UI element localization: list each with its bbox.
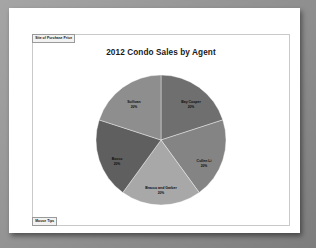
- pie-label-sullivan-percent: 20%: [131, 105, 138, 109]
- chart-frame: Site of Purchase Price 2012 Condo Sales …: [32, 34, 290, 226]
- pie-label-bosso-percent: 20%: [114, 162, 121, 166]
- chart-title: 2012 Condo Sales by Agent: [33, 48, 289, 57]
- pie-label-cullen-li-name: Cullen Li: [197, 159, 212, 163]
- pie-chart: Bay Cooper 20% Cullen Li 20% Bracco and …: [94, 73, 228, 207]
- header-tab-label[interactable]: Site of Purchase Price: [32, 34, 75, 43]
- footer-tab-label[interactable]: Mouse Tips: [32, 217, 57, 226]
- pie-label-bracco-and-garber-percent: 20%: [158, 191, 165, 195]
- pie-label-cullen-li-percent: 20%: [201, 164, 208, 168]
- pie-label-bosso-name: Bosso: [112, 157, 123, 161]
- pie-chart-svg: Bay Cooper 20% Cullen Li 20% Bracco and …: [94, 73, 228, 207]
- pie-label-bracco-and-garber-name: Bracco and Garber: [145, 186, 177, 190]
- pie-label-bay-cooper-name: Bay Cooper: [181, 100, 201, 104]
- print-preview-window: Site of Purchase Price 2012 Condo Sales …: [0, 0, 316, 248]
- pie-label-sullivan-name: Sullivan: [127, 100, 140, 104]
- pie-label-bay-cooper-percent: 20%: [188, 105, 195, 109]
- document-page: Site of Purchase Price 2012 Condo Sales …: [9, 8, 300, 233]
